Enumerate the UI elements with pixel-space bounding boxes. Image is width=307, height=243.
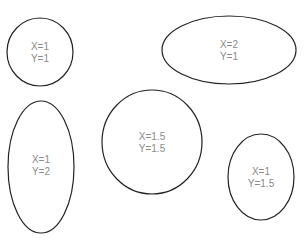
ellipse-5-y-label: Y=1.5 xyxy=(248,178,275,189)
ellipse-1: X=1 Y=1 xyxy=(7,18,73,86)
ellipse-3-y-label: Y=2 xyxy=(32,166,51,177)
ellipse-3-x-label: X=1 xyxy=(32,154,51,165)
ellipse-4: X=1.5 Y=1.5 xyxy=(102,90,202,194)
ellipse-1-x-label: X=1 xyxy=(31,41,50,52)
ellipse-5: X=1 Y=1.5 xyxy=(228,134,294,220)
ellipse-3: X=1 Y=2 xyxy=(8,101,74,233)
ellipse-2: X=2 Y=1 xyxy=(162,16,296,84)
ellipse-5-x-label: X=1 xyxy=(252,166,271,177)
ellipse-1-y-label: Y=1 xyxy=(31,53,50,64)
ellipse-2-y-label: Y=1 xyxy=(220,51,239,62)
ellipse-4-y-label: Y=1.5 xyxy=(139,143,166,154)
ellipse-4-x-label: X=1.5 xyxy=(139,131,166,142)
ellipse-diagram: X=1 Y=1 X=2 Y=1 X=1 Y=2 X=1.5 Y=1.5 X=1 … xyxy=(0,0,307,243)
ellipse-2-x-label: X=2 xyxy=(220,39,239,50)
